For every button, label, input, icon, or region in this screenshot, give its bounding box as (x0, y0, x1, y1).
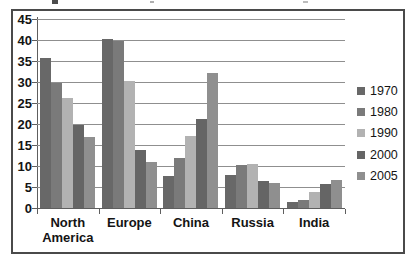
bar-group-north-america (37, 20, 99, 209)
bar-2000 (73, 125, 84, 209)
bar-1970 (163, 176, 174, 209)
bar-2005 (146, 162, 157, 209)
bar-group-china (160, 20, 222, 209)
y-tick-label: 20 (7, 118, 32, 132)
category-label: Russia (222, 215, 284, 230)
bar-1980 (51, 83, 62, 209)
bar-2005 (331, 180, 342, 209)
bar-2000 (196, 119, 207, 209)
category-label: North America (37, 215, 99, 245)
bar-1990 (124, 81, 135, 209)
bar-group-europe (99, 20, 161, 209)
legend-entry-1980: 1980 (357, 101, 398, 122)
bar-1990 (185, 136, 196, 209)
bar-1990 (62, 98, 73, 209)
legend-label: 1970 (370, 84, 398, 98)
legend-entry-1970: 1970 (357, 80, 398, 101)
legend-swatch-1980 (357, 108, 365, 116)
y-tick-label: 10 (7, 160, 32, 174)
bar-2000 (135, 150, 146, 209)
category-label: Europe (99, 215, 161, 230)
x-axis-line (37, 208, 345, 209)
legend-entry-2000: 2000 (357, 144, 398, 165)
legend-label: 1990 (370, 126, 398, 140)
y-tick-label: 25 (7, 97, 32, 111)
y-tick-label: 5 (7, 181, 32, 195)
x-tick (283, 209, 284, 214)
cropped-text-fragment (150, 1, 154, 3)
y-tick-label: 0 (7, 202, 32, 216)
legend-label: 2005 (370, 169, 398, 183)
y-tick-label: 30 (7, 76, 32, 90)
legend-swatch-2005 (357, 172, 365, 180)
bar-1970 (102, 39, 113, 209)
bar-group-india (283, 20, 345, 209)
bar-1990 (247, 164, 258, 209)
chart-screenshot: 051015202530354045 North AmericaEuropeCh… (0, 0, 409, 262)
bar-1970 (40, 58, 51, 209)
bar-2000 (320, 184, 331, 209)
legend-label: 2000 (370, 148, 398, 162)
x-tick (37, 209, 38, 214)
bar-2005 (207, 73, 218, 210)
category-label: India (283, 215, 345, 230)
y-tick-label: 40 (7, 34, 32, 48)
x-tick (222, 209, 223, 214)
bar-group-russia (222, 20, 284, 209)
bar-1980 (113, 41, 124, 209)
legend-swatch-2000 (357, 151, 365, 159)
y-tick-label: 15 (7, 139, 32, 153)
plot-area (37, 20, 345, 209)
legend-label: 1980 (370, 105, 398, 119)
legend-entry-1990: 1990 (357, 123, 398, 144)
legend: 19701980199020002005 (357, 80, 398, 187)
y-tick-label: 45 (7, 13, 32, 27)
bar-1980 (174, 158, 185, 209)
x-tick (160, 209, 161, 214)
bar-2005 (269, 183, 280, 209)
bar-2005 (84, 137, 95, 209)
cropped-text-fragment (303, 1, 308, 3)
x-tick (99, 209, 100, 214)
bar-2000 (258, 181, 269, 209)
bar-1980 (236, 165, 247, 209)
x-tick (345, 209, 346, 214)
legend-swatch-1990 (357, 129, 365, 137)
bar-1990 (309, 192, 320, 209)
category-label: China (160, 215, 222, 230)
cropped-text-fragment (52, 0, 58, 4)
legend-swatch-1970 (357, 87, 365, 95)
legend-entry-2005: 2005 (357, 166, 398, 187)
bar-1970 (225, 175, 236, 209)
y-tick-label: 35 (7, 55, 32, 69)
